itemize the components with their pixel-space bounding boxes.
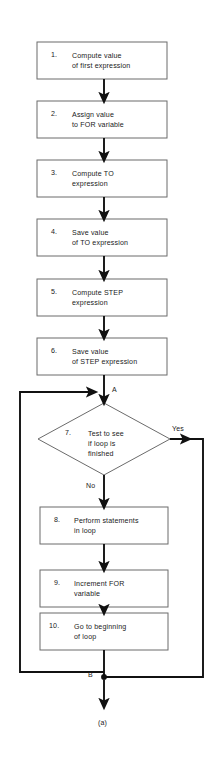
node-label-9-line1: Increment FOR [74, 579, 124, 589]
node-number-10: 10. [49, 622, 59, 630]
node-number-4: 4. [51, 228, 57, 236]
node-label-8-line1: Perform statements [74, 516, 139, 526]
figure-caption: (a) [98, 719, 107, 726]
node-label-5-line2: expression [72, 298, 108, 308]
flowchart-diagram: 1. Compute value of first expression 2. … [0, 0, 220, 764]
node-number-3: 3. [51, 169, 57, 177]
node-label-7-line3: finished [88, 449, 114, 459]
node-label-4-line1: Save value [72, 228, 109, 238]
node-label-3-line2: expression [72, 179, 108, 189]
node-label-2-line1: Assign value [72, 110, 114, 120]
node-label-9-line2: variable [74, 589, 100, 599]
node-label-10-line2: of loop [74, 632, 96, 642]
node-number-1: 1. [51, 51, 57, 59]
node-label-6-line1: Save value [72, 347, 109, 357]
node-label-1-line1: Compute value [72, 51, 122, 61]
node-label-5-line1: Compute STEP [72, 288, 123, 298]
node-label-3-line1: Compute TO [72, 169, 114, 179]
node-label-1-line2: of first expression [72, 61, 130, 71]
junction-dot-b [101, 674, 107, 680]
node-label-4-line2: of TO expression [72, 238, 128, 248]
node-number-9: 9. [54, 579, 60, 587]
node-number-2: 2. [51, 110, 57, 118]
node-number-7: 7. [65, 429, 71, 437]
node-number-5: 5. [51, 288, 57, 296]
node-label-10-line1: Go to beginning [74, 622, 126, 632]
node-number-6: 6. [51, 347, 57, 355]
node-label-8-line2: in loop [74, 526, 96, 536]
node-label-7-line2: if loop is [88, 439, 116, 449]
node-number-8: 8. [54, 516, 60, 524]
edge-label-yes: Yes [172, 425, 184, 432]
node-label-6-line2: of STEP expression [72, 357, 137, 367]
edge-label-no: No [86, 482, 95, 489]
node-label-2-line2: to FOR variable [72, 120, 124, 130]
node-label-7-line1: Test to see [88, 429, 124, 439]
connector-label-a: A [112, 386, 117, 393]
connector-label-b: B [88, 671, 93, 678]
